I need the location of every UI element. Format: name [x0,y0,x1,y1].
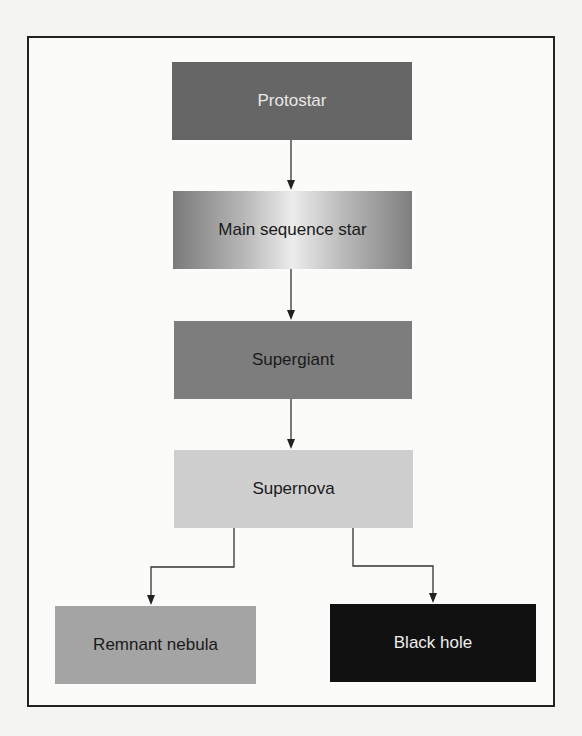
node-supernova: Supernova [174,450,413,528]
node-black-hole: Black hole [330,604,536,682]
node-label: Supergiant [252,350,334,370]
node-label: Black hole [394,633,472,653]
node-remnant-nebula: Remnant nebula [55,606,256,684]
node-label: Protostar [258,91,327,111]
node-label: Remnant nebula [93,635,218,655]
node-label: Main sequence star [218,220,366,240]
node-protostar: Protostar [172,62,412,140]
node-label: Supernova [252,479,334,499]
node-main-sequence-star: Main sequence star [173,191,412,269]
node-supergiant: Supergiant [174,321,412,399]
